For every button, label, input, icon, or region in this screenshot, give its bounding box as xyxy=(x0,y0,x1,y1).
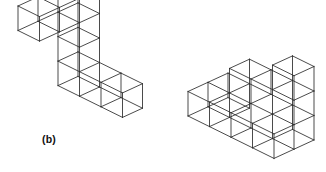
cube-edge xyxy=(228,73,250,84)
cube-edge xyxy=(251,94,271,103)
cube-edge xyxy=(210,93,230,102)
cube-edge xyxy=(250,84,272,95)
figure-panel: (b) xyxy=(0,0,326,172)
cube-edge xyxy=(58,61,80,72)
cube-edge xyxy=(188,107,208,116)
cube-edge xyxy=(188,82,208,91)
cube-edge xyxy=(210,127,232,138)
cube-edge xyxy=(78,3,100,14)
cube-edge xyxy=(40,32,60,41)
cube-edge xyxy=(80,14,100,23)
cube-edge xyxy=(273,105,293,114)
cube-edge xyxy=(274,149,294,158)
cube-edge xyxy=(230,84,250,93)
cube-edge xyxy=(231,104,251,113)
cube-edge xyxy=(121,73,143,84)
cube-edge xyxy=(208,82,230,93)
cube-edge xyxy=(100,87,122,98)
cube-edge xyxy=(294,140,314,149)
cube-edge xyxy=(18,0,38,6)
cube-edge xyxy=(78,52,100,63)
cube-edge xyxy=(294,91,314,100)
cube-edge xyxy=(210,117,230,126)
cube-edge xyxy=(274,125,294,134)
cube-edge xyxy=(101,82,123,93)
cube-edge xyxy=(230,68,252,79)
cube-edge xyxy=(208,107,230,118)
cube-edge xyxy=(273,65,295,76)
cube-edge xyxy=(273,129,293,138)
cube-edge xyxy=(251,70,271,79)
cube-edge xyxy=(58,12,80,23)
cube-edge xyxy=(294,116,314,125)
cube-edge xyxy=(210,102,232,113)
cube-edge xyxy=(80,96,102,107)
cube-edge xyxy=(293,129,315,140)
cube-edge xyxy=(58,86,80,97)
cube-edge xyxy=(251,128,273,139)
cube-edge xyxy=(228,98,250,109)
cube-edge xyxy=(230,59,250,68)
cube-edge xyxy=(293,56,315,67)
cube-edge xyxy=(18,6,40,17)
cube-edge xyxy=(253,139,273,148)
cube-edge xyxy=(230,108,250,117)
cube-edge xyxy=(230,117,252,128)
cube-edge xyxy=(273,56,293,65)
cube-edge xyxy=(271,70,293,81)
cube-edge xyxy=(273,80,293,89)
right-polycube-wireframe xyxy=(188,56,314,158)
cube-edge xyxy=(60,23,80,32)
cube-edge xyxy=(40,7,60,16)
cube-edge xyxy=(231,128,251,137)
cube-edge xyxy=(208,73,228,82)
cube-edge xyxy=(250,59,272,70)
cube-edge xyxy=(273,114,295,125)
cube-edge xyxy=(101,98,121,107)
cube-edge xyxy=(208,98,228,107)
cube-edge xyxy=(80,38,100,47)
panel-label-b: (b) xyxy=(42,133,56,145)
cube-edge xyxy=(121,98,143,109)
cube-edge xyxy=(18,31,40,42)
cube-edge xyxy=(293,105,315,116)
cube-edge xyxy=(188,116,210,127)
cube-edge xyxy=(123,84,143,93)
cube-edge xyxy=(58,76,78,85)
cube-edge xyxy=(78,27,100,38)
cube-edge xyxy=(188,92,210,103)
cube-edge xyxy=(80,87,100,96)
cube-edge xyxy=(38,0,60,7)
cube-edge xyxy=(38,12,58,21)
cube-edge xyxy=(58,37,80,48)
cube-edge xyxy=(251,79,273,90)
cube-edge xyxy=(271,94,293,105)
cube-edge xyxy=(253,148,275,159)
cube-edge xyxy=(78,76,100,87)
cube-edge xyxy=(294,67,314,76)
cube-edge xyxy=(58,52,78,61)
cube-edge xyxy=(273,90,295,101)
cube-edge xyxy=(253,123,275,134)
cube-edge xyxy=(251,104,273,115)
cube-edge xyxy=(80,72,102,83)
cube-edge xyxy=(101,107,123,118)
cube-edge xyxy=(80,63,100,72)
left-polycube-wireframe xyxy=(18,0,143,117)
cube-edge xyxy=(18,21,38,30)
cube-edge xyxy=(101,73,121,82)
cube-edge xyxy=(38,21,60,32)
cube-edge xyxy=(231,137,253,148)
cube-edge xyxy=(273,139,295,150)
cube-edge xyxy=(100,63,122,74)
cube-edge xyxy=(58,27,78,36)
cube-edge xyxy=(58,3,78,12)
cube-edge xyxy=(123,108,143,117)
cube-edge xyxy=(293,80,315,91)
wireframe-illustration xyxy=(0,0,326,172)
cube-edge xyxy=(230,93,252,104)
cube-edge xyxy=(231,113,253,124)
cube-edge xyxy=(253,114,273,123)
